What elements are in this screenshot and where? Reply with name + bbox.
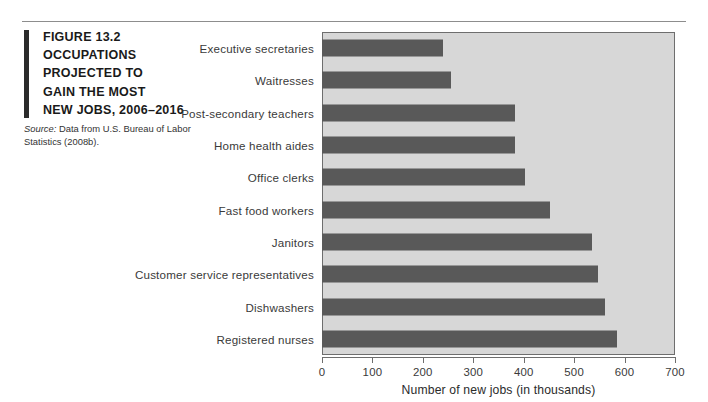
x-axis-tick bbox=[473, 357, 474, 363]
bar-category-label: Executive secretaries bbox=[200, 42, 314, 55]
x-axis-tick bbox=[524, 357, 525, 363]
x-axis-tick-label: 600 bbox=[615, 366, 635, 378]
bar bbox=[322, 330, 617, 347]
bar-category-label: Post-secondary teachers bbox=[181, 106, 314, 119]
x-axis-title: Number of new jobs (in thousands) bbox=[322, 383, 675, 397]
bar-category-label: Registered nurses bbox=[217, 332, 315, 345]
bar-row: Dishwashers bbox=[322, 290, 675, 322]
x-axis-tick-label: 700 bbox=[665, 366, 685, 378]
x-axis-tick-label: 0 bbox=[319, 366, 326, 378]
bar-row: Executive secretaries bbox=[322, 32, 675, 64]
x-axis-tick bbox=[372, 357, 373, 363]
bar bbox=[322, 201, 550, 218]
bar-category-label: Customer service representatives bbox=[135, 268, 314, 281]
bar bbox=[322, 266, 598, 283]
bar-category-label: Office clerks bbox=[248, 171, 314, 184]
bar-row: Customer service representatives bbox=[322, 258, 675, 290]
bar bbox=[322, 40, 443, 57]
x-axis-tick bbox=[423, 357, 424, 363]
bar bbox=[322, 137, 515, 154]
bar-row: Janitors bbox=[322, 226, 675, 258]
bar bbox=[322, 169, 525, 186]
x-axis-tick-label: 500 bbox=[564, 366, 584, 378]
bar-category-label: Janitors bbox=[272, 235, 314, 248]
x-axis-line bbox=[322, 357, 675, 358]
bar-chart: Executive secretariesWaitressesPost-seco… bbox=[0, 0, 708, 402]
x-axis-tick bbox=[675, 357, 676, 363]
bar-category-label: Waitresses bbox=[255, 74, 314, 87]
x-axis-tick-label: 200 bbox=[413, 366, 433, 378]
bar bbox=[322, 298, 605, 315]
bar bbox=[322, 104, 515, 121]
bar-category-label: Dishwashers bbox=[245, 300, 314, 313]
figure-container: FIGURE 13.2 OCCUPATIONS PROJECTED TO GAI… bbox=[0, 0, 708, 402]
x-axis-tick bbox=[322, 357, 323, 363]
bar bbox=[322, 72, 451, 89]
x-axis-tick-label: 100 bbox=[363, 366, 383, 378]
bar-row: Post-secondary teachers bbox=[322, 97, 675, 129]
bar-row: Fast food workers bbox=[322, 194, 675, 226]
bar-row: Home health aides bbox=[322, 129, 675, 161]
bar-row: Office clerks bbox=[322, 161, 675, 193]
bar-category-label: Fast food workers bbox=[218, 203, 314, 216]
bar-row: Waitresses bbox=[322, 64, 675, 96]
x-axis-tick bbox=[574, 357, 575, 363]
x-axis-tick-label: 400 bbox=[514, 366, 534, 378]
bar-row: Registered nurses bbox=[322, 323, 675, 355]
bar-category-label: Home health aides bbox=[214, 139, 314, 152]
x-axis-tick-label: 300 bbox=[463, 366, 483, 378]
x-axis-tick bbox=[625, 357, 626, 363]
bar bbox=[322, 233, 592, 250]
